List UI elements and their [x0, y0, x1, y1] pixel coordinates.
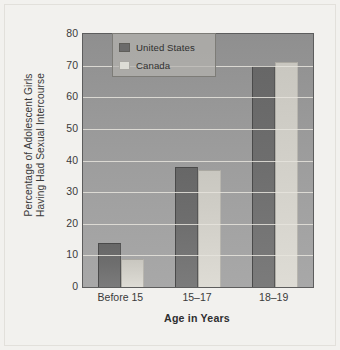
legend-swatch-icon-canada — [119, 61, 130, 70]
bar-united-states-0 — [98, 243, 121, 287]
y-tick-label: 50 — [66, 122, 78, 134]
y-tick-label: 0 — [72, 280, 78, 292]
chart-legend: United States Canada — [112, 33, 216, 77]
y-tick-label: 70 — [66, 59, 78, 71]
y-axis-title-line-1: Percentage of Adolescent Girls — [23, 74, 35, 217]
y-axis-title: Percentage of Adolescent Girls Having Ha… — [18, 15, 52, 275]
legend-item-canada: Canada — [119, 56, 210, 74]
legend-label-united-states: United States — [136, 42, 195, 53]
legend-swatch-icon-united-states — [119, 43, 130, 52]
y-tick-label: 20 — [66, 217, 78, 229]
bar-canada-2 — [275, 62, 298, 287]
bar-canada-1 — [198, 170, 221, 287]
x-axis-tick-labels: Before 1515–1718–19 — [82, 291, 312, 307]
y-tick-label: 30 — [66, 185, 78, 197]
x-tick-label: 15–17 — [182, 291, 211, 303]
chart-page: Percentage of Adolescent Girls Having Ha… — [0, 0, 340, 350]
bar-canada-0 — [121, 259, 144, 287]
x-axis-title: Age in Years — [82, 312, 312, 324]
y-tick-label: 60 — [66, 90, 78, 102]
y-tick-label: 40 — [66, 154, 78, 166]
legend-label-canada: Canada — [136, 60, 170, 71]
bar-united-states-2 — [252, 66, 275, 287]
y-tick-label: 80 — [66, 27, 78, 39]
x-tick-label: Before 15 — [98, 291, 144, 303]
y-axis-tick-labels: 01020304050607080 — [56, 33, 78, 286]
x-tick-label: 18–19 — [259, 291, 288, 303]
legend-item-united-states: United States — [119, 38, 210, 56]
y-axis-title-line-2: Having Had Sexual Intercourse — [35, 73, 47, 217]
y-tick-label: 10 — [66, 248, 78, 260]
bar-united-states-1 — [175, 167, 198, 287]
